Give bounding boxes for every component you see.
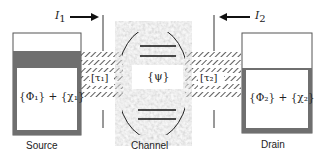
drain-label: Drain	[261, 139, 285, 150]
right-lead-label: [τ₂]	[200, 72, 217, 83]
source-box	[13, 33, 81, 135]
source-content: {Φ₁} + {χ₁}	[19, 90, 85, 102]
i2-arrow-icon	[219, 13, 250, 21]
source-label: Source	[26, 140, 58, 151]
current-i2-label: I2	[255, 9, 266, 24]
i1-arrow-icon	[70, 13, 99, 21]
channel-label: Channel	[131, 140, 168, 151]
drain-box	[242, 33, 312, 133]
channel-content: {ψ}	[147, 70, 170, 83]
channel-region	[117, 27, 189, 139]
current-i1-label: I1	[55, 9, 66, 24]
drain-content: {Φ₂} + {χ₂}	[249, 91, 315, 103]
left-lead-label: [τ₁]	[91, 72, 108, 83]
